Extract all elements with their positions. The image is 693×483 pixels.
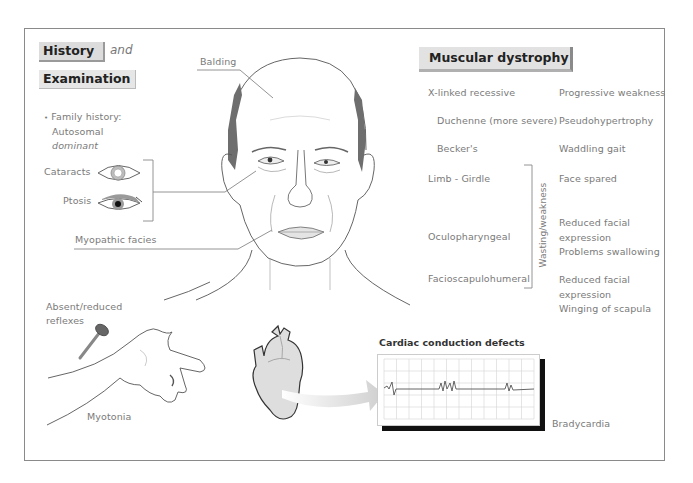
cardiac-title: Cardiac conduction defects <box>379 337 525 348</box>
arrow-to-ecg <box>0 0 693 483</box>
ecg-trace <box>384 359 534 419</box>
bradycardia-label: Bradycardia <box>552 418 610 429</box>
